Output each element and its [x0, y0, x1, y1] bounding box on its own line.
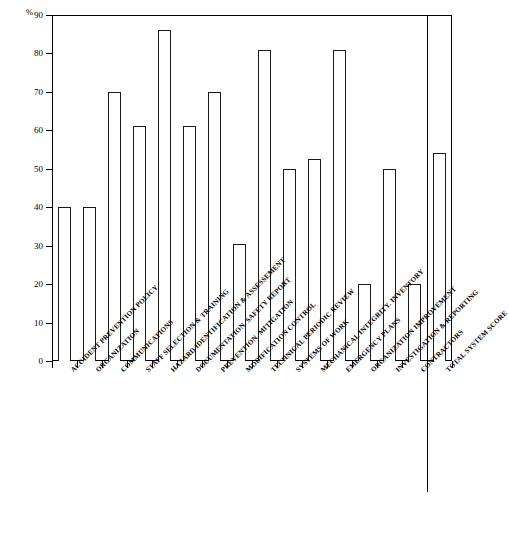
x-axis-tick [52, 361, 53, 368]
y-axis-tick-label: 30 [22, 241, 43, 250]
y-axis-tick-label: 80 [22, 49, 43, 58]
y-axis-tick-label: 10 [22, 318, 43, 327]
y-axis-tick-label: 70 [22, 87, 43, 96]
y-axis-tick-label: 40 [22, 203, 43, 212]
y-axis-tick-label: 60 [22, 126, 43, 135]
y-axis-tick-label: 0 [22, 357, 43, 366]
y-axis-tick-label: 50 [22, 164, 43, 173]
total-score-separator [427, 15, 428, 492]
bar [158, 30, 171, 361]
y-axis-tick-label: 90 [22, 11, 43, 20]
bar [58, 207, 71, 361]
bar [258, 50, 271, 361]
y-axis-tick-label: 20 [22, 280, 43, 289]
bar [333, 50, 346, 361]
bar [83, 207, 96, 361]
bar [133, 126, 146, 361]
